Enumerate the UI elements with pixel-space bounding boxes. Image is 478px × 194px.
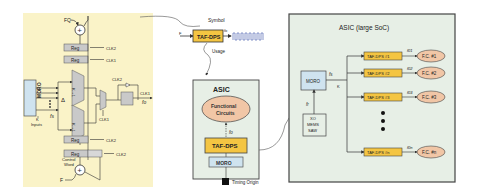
svg-text:F.C. #2: F.C. #2 [422,71,437,76]
fq-label: FQ [64,17,71,23]
asic-large: ASIC (large SoC) MORO fs K XO MEMS SAW f… [289,14,455,182]
svg-text:CLK2: CLK2 [106,46,117,51]
svg-text:fo: fo [229,130,233,135]
mux-2to1 [100,90,106,110]
svg-text:fo: fo [142,99,146,105]
svg-text:F: F [60,177,63,183]
svg-text:XO: XO [310,116,316,121]
svg-text:TAF-DPS: TAF-DPS [197,34,221,40]
svg-text:MORO: MORO [36,82,42,98]
svg-text:CLK2: CLK2 [112,77,123,82]
svg-text:Word: Word [64,162,75,167]
svg-text:+: + [77,26,82,35]
svg-text:F: F [179,31,182,36]
svg-text:TAF-DPS #n: TAF-DPS #n [367,150,389,155]
svg-text:CLK1: CLK1 [106,58,117,63]
svg-text:Reg: Reg [71,58,80,63]
svg-text:CLK2: CLK2 [106,138,117,143]
svg-text:TAF-DPS #3: TAF-DPS #3 [367,95,390,100]
svg-text:K→1: K→1 [71,123,76,133]
svg-text:ASIC: ASIC [213,86,230,93]
moro-block [24,80,36,116]
svg-text:Functional: Functional [211,103,237,109]
svg-text:Δ: Δ [61,97,65,103]
svg-text:Timing Origin: Timing Origin [232,180,259,185]
svg-text:Reg: Reg [71,138,80,143]
svg-text:TAF-DPS #1: TAF-DPS #1 [367,54,390,59]
svg-text:f01: f01 [407,48,413,53]
svg-text:MEMS: MEMS [307,122,319,127]
svg-text:TAF-DPS: TAF-DPS [212,143,238,149]
symbol-section: Symbol F TAF-DPS fo Usage [179,17,263,75]
taf-dps-diagram: FQ + Reg CLK2 Reg CLK1 K→1 K→1 MORO Δ fs… [0,0,478,194]
svg-text:SAW: SAW [308,128,317,133]
svg-text:ASIC (large SoC): ASIC (large SoC) [339,24,389,32]
svg-text:TAF-DPS #2: TAF-DPS #2 [367,71,390,76]
svg-text:fo: fo [224,28,228,33]
svg-text:f03: f03 [407,90,413,95]
svg-text:fs: fs [50,113,54,119]
svg-text:MORO: MORO [306,79,320,84]
svg-text:CLK2: CLK2 [116,152,127,157]
flip-flop [121,92,133,105]
functional-circuits [202,96,250,122]
clock-waveform-icon [233,33,263,40]
svg-text:Reg: Reg [71,46,80,51]
svg-text:K→1: K→1 [71,88,76,98]
svg-text:CLK1: CLK1 [99,117,110,122]
svg-text:f0n: f0n [407,145,413,150]
svg-text:MORO: MORO [216,160,232,166]
svg-text:F.C. #3: F.C. #3 [422,95,437,100]
svg-text:Inputs: Inputs [31,122,42,127]
svg-text:Symbol: Symbol [208,17,225,23]
circuit-panel: FQ + Reg CLK2 Reg CLK1 K→1 K→1 MORO Δ fs… [23,13,153,187]
timing-origin-marker [222,178,229,185]
svg-text:K: K [337,84,340,89]
svg-text:f02: f02 [407,66,413,71]
svg-text:Circuits: Circuits [216,110,235,116]
svg-text:+: + [77,166,82,175]
svg-text:F.C. #1: F.C. #1 [422,54,437,59]
asic-small: ASIC Functional Circuits fo TAF-DPS MORO… [193,80,259,185]
svg-text:CLK1: CLK1 [140,91,151,96]
svg-text:Reg: Reg [71,152,80,157]
svg-text:Usage: Usage [212,49,226,54]
svg-text:F.C. #n: F.C. #n [422,150,437,155]
